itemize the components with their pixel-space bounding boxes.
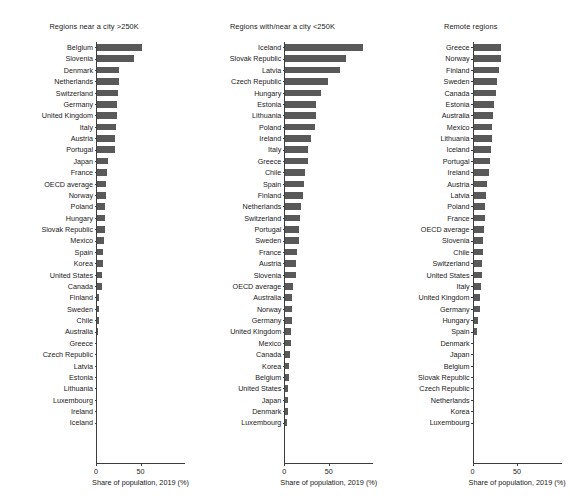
chart-panel-3: Remote regions GreeceNorwayFinlandSweden… bbox=[377, 0, 565, 500]
chart-panel-1: Regions near a city >250K BelgiumSloveni… bbox=[0, 0, 188, 500]
y-tick-mark bbox=[471, 343, 473, 344]
bar bbox=[285, 226, 299, 233]
bar-row: Austria bbox=[474, 179, 562, 190]
bar-row: Ireland bbox=[285, 133, 373, 144]
x-tick-mark bbox=[329, 463, 330, 466]
category-label: United States bbox=[50, 271, 93, 280]
category-label: Belgium bbox=[255, 373, 281, 382]
category-label: Norway bbox=[445, 54, 469, 63]
category-label: France bbox=[259, 248, 281, 257]
category-label: Ireland bbox=[259, 134, 281, 143]
category-label: Portugal bbox=[66, 145, 93, 154]
category-label: United Kingdom bbox=[42, 111, 93, 120]
bar bbox=[285, 124, 314, 131]
bar bbox=[285, 44, 362, 51]
category-label: Latvia bbox=[262, 66, 281, 75]
category-label: Estonia bbox=[257, 100, 281, 109]
category-label: Hungary bbox=[66, 214, 93, 223]
category-label: Portugal bbox=[443, 157, 470, 166]
category-label: Italy bbox=[456, 282, 469, 291]
bar-row: Mexico bbox=[97, 235, 185, 246]
category-label: Italy bbox=[80, 123, 93, 132]
bar-row: Chile bbox=[97, 315, 185, 326]
bar-row: Denmark bbox=[474, 338, 562, 349]
category-label: Poland bbox=[447, 202, 469, 211]
category-label: Estonia bbox=[446, 100, 470, 109]
bar bbox=[285, 169, 305, 176]
bar-row: Lithuania bbox=[97, 383, 185, 394]
bar-row: Italy bbox=[285, 144, 373, 155]
category-label: Spain bbox=[75, 248, 93, 257]
category-label: Netherlands bbox=[431, 396, 470, 405]
bar bbox=[285, 328, 291, 335]
bar bbox=[285, 272, 295, 279]
x-tick-mark bbox=[141, 463, 142, 466]
bar-row: Italy bbox=[97, 122, 185, 133]
category-label: Luxembourg bbox=[430, 418, 470, 427]
category-label: Lithuania bbox=[252, 111, 281, 120]
category-label: Chile bbox=[265, 168, 281, 177]
category-label: Finland bbox=[69, 293, 93, 302]
bar bbox=[97, 203, 105, 210]
bar bbox=[474, 55, 501, 62]
plot-area-1: BelgiumSloveniaDenmarkNetherlandsSwitzer… bbox=[96, 42, 185, 463]
category-label: Netherlands bbox=[243, 202, 282, 211]
bar bbox=[474, 328, 478, 335]
chart-title-1: Regions near a city >250K bbox=[0, 22, 188, 31]
category-label: Greece bbox=[69, 339, 93, 348]
bar-row: Austria bbox=[97, 133, 185, 144]
category-label: Netherlands bbox=[54, 77, 93, 86]
bar bbox=[285, 294, 292, 301]
bar-row: Canada bbox=[97, 281, 185, 292]
bar bbox=[97, 146, 115, 153]
category-label: Iceland bbox=[258, 43, 281, 52]
bar bbox=[285, 249, 297, 256]
bar-row: France bbox=[97, 167, 185, 178]
bar-row: Australia bbox=[97, 326, 185, 337]
category-label: Finland bbox=[258, 191, 282, 200]
bar-row: Australia bbox=[474, 110, 562, 121]
bar-row: Netherlands bbox=[285, 201, 373, 212]
bar-row: United States bbox=[474, 270, 562, 281]
category-label: United States bbox=[426, 271, 469, 280]
y-tick-mark bbox=[471, 411, 473, 412]
y-tick-mark bbox=[95, 400, 97, 401]
bar bbox=[97, 249, 103, 256]
bar-row: Slovak Republic bbox=[285, 53, 373, 64]
category-label: Ireland bbox=[448, 168, 470, 177]
bar-row: Estonia bbox=[474, 99, 562, 110]
bar bbox=[285, 55, 346, 62]
category-label: Slovak Republic bbox=[41, 225, 93, 234]
category-label: Norway bbox=[257, 305, 281, 314]
chart-title-2: Regions with/near a city <250K bbox=[188, 22, 376, 31]
x-tick-label: 0 bbox=[282, 467, 286, 476]
category-label: Germany bbox=[252, 316, 282, 325]
category-label: Ireland bbox=[71, 407, 93, 416]
bar-row: United Kingdom bbox=[474, 292, 562, 303]
bar-row: Finland bbox=[474, 65, 562, 76]
x-tick-label: 50 bbox=[137, 467, 145, 476]
plot-area-3: GreeceNorwayFinlandSwedenCanadaEstoniaAu… bbox=[473, 42, 562, 463]
category-label: Poland bbox=[71, 202, 93, 211]
bar bbox=[97, 306, 99, 313]
y-tick-mark bbox=[471, 377, 473, 378]
category-label: Switzerland bbox=[432, 259, 469, 268]
category-label: Canada bbox=[444, 89, 469, 98]
category-label: Spain bbox=[263, 180, 281, 189]
category-label: Australia bbox=[65, 327, 93, 336]
bar bbox=[97, 226, 105, 233]
category-label: Greece bbox=[258, 157, 282, 166]
bar-row: Germany bbox=[285, 315, 373, 326]
bar bbox=[97, 328, 98, 335]
category-label: Spain bbox=[451, 327, 469, 336]
bar bbox=[285, 385, 288, 392]
category-label: United Kingdom bbox=[230, 327, 281, 336]
bar-row: Iceland bbox=[285, 42, 373, 53]
bar bbox=[97, 67, 119, 74]
x-tick-label: 0 bbox=[471, 467, 475, 476]
bar bbox=[474, 260, 483, 267]
category-label: Switzerland bbox=[56, 89, 93, 98]
bar bbox=[285, 397, 288, 404]
category-label: Latvia bbox=[74, 362, 93, 371]
bar-row: Hungary bbox=[285, 88, 373, 99]
